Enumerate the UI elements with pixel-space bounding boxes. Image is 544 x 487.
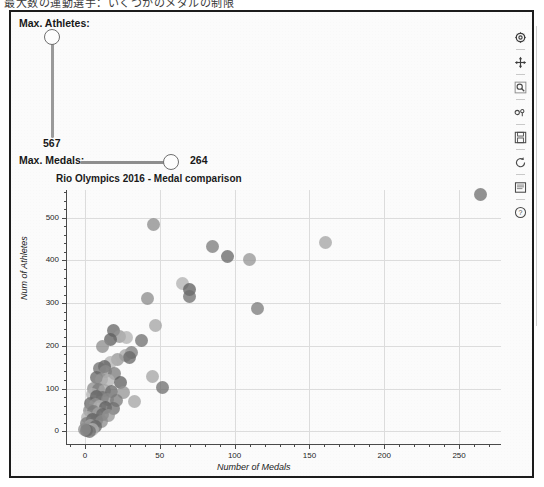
y-tick-label: 100 [25,384,59,393]
y-tick-label: 0 [25,426,59,435]
y-tick [62,346,67,347]
x-tick-minor [294,444,295,447]
y-tick-minor [64,192,67,193]
max-medals-slider-handle[interactable] [163,154,179,170]
x-tick-minor [70,444,71,447]
max-athletes-label: Max. Athletes: [19,17,90,29]
y-tick-minor [64,286,67,287]
x-tick-minor [190,444,191,447]
y-tick-label: 500 [25,213,59,222]
scatter-point [141,292,154,305]
y-tick [62,218,67,219]
max-athletes-slider-track[interactable] [51,40,54,138]
x-tick-minor [280,444,281,447]
scatter-figure: Rio Olympics 2016 - Medal comparison 010… [11,170,513,478]
application-window: Max. Athletes: 567 Max. Medals: 264 Rio … [9,10,534,478]
grid-line-vertical [309,190,310,444]
x-tick-minor [100,444,101,447]
grid-line-horizontal [67,260,501,261]
clipped-top-text: 最大数の運動選手：いくつかのメダルの制限 [4,0,234,9]
scatter-point [206,240,219,253]
refresh-icon[interactable] [509,151,532,173]
x-tick-minor [429,444,430,447]
x-tick-label: 250 [439,451,479,460]
y-tick-minor [64,235,67,236]
grid-line-vertical [235,190,236,444]
screenshot-root: 最大数の運動選手：いくつかのメダルの制限 Max. Athletes: 567 … [0,0,544,487]
x-tick-minor [220,444,221,447]
clipped-top-text-strip: 最大数の運動選手：いくつかのメダルの制限 [0,0,544,9]
zoom-icon[interactable] [509,76,532,98]
y-tick-minor [64,201,67,202]
figure-toolbar[interactable]: ? [509,26,532,326]
y-tick-minor [64,354,67,355]
max-athletes-slider-group[interactable]: Max. Athletes: 567 [15,17,135,147]
toolbar-separator [516,49,525,50]
y-tick-label: 300 [25,298,59,307]
x-tick-minor [444,444,445,447]
y-tick-minor [64,269,67,270]
toolbar-separator [516,199,525,200]
print-icon[interactable] [509,176,532,198]
y-tick-minor [64,226,67,227]
grid-line-vertical [384,190,385,444]
y-tick-minor [64,278,67,279]
max-medals-slider-group[interactable]: Max. Medals: 264 [15,151,245,171]
x-tick-minor [175,444,176,447]
x-tick [235,444,236,449]
scatter-point [474,188,487,201]
y-tick-label: 200 [25,341,59,350]
x-tick-label: 0 [65,451,105,460]
x-tick-minor [339,444,340,447]
toolbar-rail [536,26,537,326]
scatter-point [149,319,162,332]
x-tick-minor [474,444,475,447]
scatter-point [128,395,141,408]
x-tick-label: 100 [215,451,255,460]
y-tick-label: 400 [25,255,59,264]
x-tick-minor [205,444,206,447]
toolbar-separator [516,74,525,75]
x-axis-label: Number of Medals [217,462,291,472]
toolbar-separator [516,174,525,175]
y-axis-label: Num of Athletes [19,236,29,300]
scatter-point [221,250,234,263]
grid-line-vertical [160,190,161,444]
x-tick-minor [354,444,355,447]
x-tick-minor [265,444,266,447]
toolbar-separator [516,99,525,100]
x-tick-minor [130,444,131,447]
svg-text:?: ? [519,209,523,216]
plot-area[interactable]: 0100200300400500050100150200250 Num of A… [67,190,501,444]
save-icon[interactable] [509,126,532,148]
max-medals-label: Max. Medals: [19,154,84,166]
y-tick-minor [64,423,67,424]
x-tick [309,444,310,449]
x-tick-minor [399,444,400,447]
x-tick-minor [489,444,490,447]
max-athletes-value: 567 [43,137,61,149]
y-tick-minor [64,209,67,210]
x-tick-minor [414,444,415,447]
scatter-point [147,218,160,231]
subplots-icon[interactable] [509,101,532,123]
x-tick-minor [250,444,251,447]
y-tick-minor [64,243,67,244]
help-icon[interactable]: ? [509,201,532,223]
grid-line-horizontal [67,389,501,390]
max-medals-value: 264 [190,154,208,166]
max-athletes-slider-handle[interactable] [44,29,60,45]
y-tick-minor [64,414,67,415]
grid-line-vertical [459,190,460,444]
configure-icon[interactable] [509,26,532,48]
grid-line-horizontal [67,431,501,432]
y-tick [62,303,67,304]
grid-line-horizontal [67,303,501,304]
move-icon[interactable] [509,51,532,73]
y-tick [62,431,67,432]
x-tick-minor [145,444,146,447]
max-medals-slider-track[interactable] [80,161,170,164]
y-tick-minor [64,363,67,364]
scatter-point [146,370,159,383]
y-tick-minor [64,320,67,321]
